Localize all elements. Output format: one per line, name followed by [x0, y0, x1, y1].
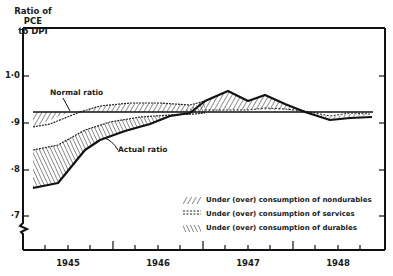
x-tick-label-1948: 1948	[318, 258, 358, 268]
y-tick-label-1.0: 1·0	[2, 70, 20, 80]
x-tick-label-1946: 1946	[138, 258, 178, 268]
services-dash-swatch	[183, 210, 203, 218]
x-tick-label-1945: 1945	[48, 258, 88, 268]
x-ticks	[45, 241, 360, 250]
legend-label-nondurables: Under (over) consumption of nondurables	[206, 193, 372, 207]
x-tick-label-1947: 1947	[228, 258, 268, 268]
nondurables-hatch-swatch	[183, 196, 203, 204]
actual-ratio-label: Actual ratio	[118, 145, 168, 154]
y-tick-label-0.7: ·7	[2, 210, 20, 220]
y-tick-label-0.9: ·9	[2, 117, 20, 127]
actual-ratio-leader	[104, 138, 118, 150]
durables-hatch-swatch	[183, 224, 203, 232]
legend-item-nondurables: Under (over) consumption of nondurables	[183, 193, 372, 207]
y-tick-label-0.8: ·8	[2, 164, 20, 174]
normal-ratio-leader	[63, 98, 70, 111]
legend-item-durables: Under (over) consumption of durables	[183, 221, 372, 235]
legend-label-durables: Under (over) consumption of durables	[206, 221, 357, 235]
legend-item-services: Under (over) consumption of services	[183, 207, 372, 221]
normal-ratio-label: Normal ratio	[50, 88, 103, 97]
legend: Under (over) consumption of nondurables …	[183, 193, 372, 235]
legend-label-services: Under (over) consumption of services	[206, 207, 355, 221]
